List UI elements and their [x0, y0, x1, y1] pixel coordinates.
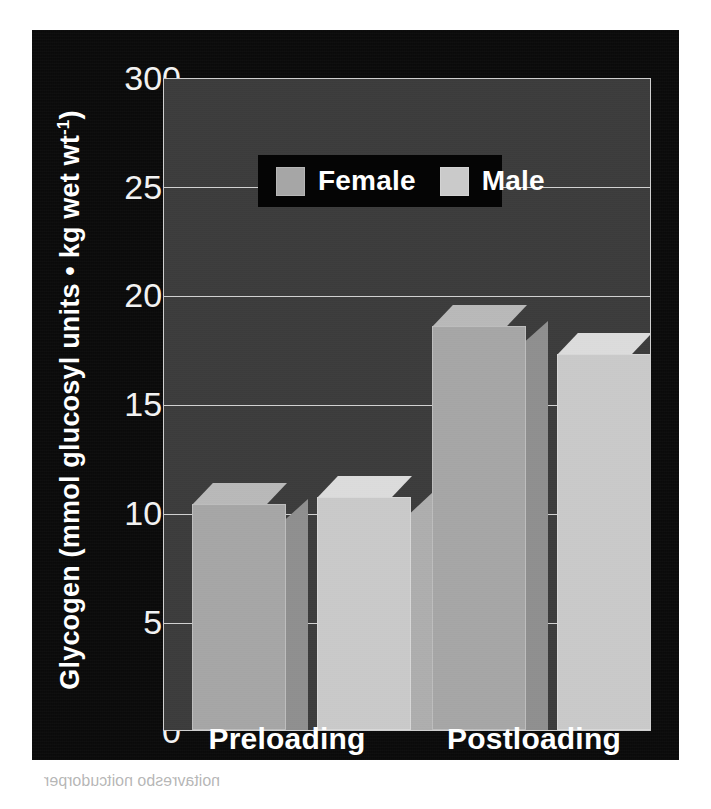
bar-male-postloading [557, 333, 651, 730]
legend-item-female: Female [276, 165, 416, 197]
bar-male-preloading [317, 476, 433, 730]
legend-swatch-female [276, 167, 305, 196]
bar-top-face [557, 333, 651, 355]
legend-swatch-male [440, 167, 469, 196]
bar-front-face [432, 326, 526, 730]
bar-top-face [317, 476, 412, 498]
bar-top-face [432, 305, 527, 327]
bar-side-face [410, 492, 433, 730]
bar-side-face [285, 499, 308, 730]
gridline-200 [164, 296, 650, 297]
bar-top-face [192, 483, 287, 505]
bar-female-preloading [192, 483, 308, 730]
x-tick-label-postloading: Postloading [414, 722, 654, 756]
legend-label-male: Male [482, 165, 545, 197]
chart-figure-panel: Glycogen (mmol glucosyl units • kg wet w… [32, 30, 679, 760]
bar-front-face [317, 497, 411, 730]
bar-front-face [557, 354, 651, 730]
bar-side-face [525, 321, 548, 730]
legend-item-male: Male [440, 165, 545, 197]
page-bleed-text: noitavresbo noitcudorper [44, 772, 220, 790]
bar-front-face [192, 504, 286, 730]
legend-label-female: Female [318, 165, 416, 197]
figure-root: Glycogen (mmol glucosyl units • kg wet w… [0, 0, 711, 809]
chart-legend: Female Male [258, 155, 502, 207]
bar-female-postloading [432, 305, 548, 730]
bar-side-face [650, 349, 651, 730]
x-tick-label-preloading: Preloading [177, 722, 397, 756]
